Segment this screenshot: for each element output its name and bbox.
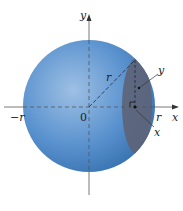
origin-label: 0 (80, 111, 87, 124)
sphere-diagram: y x 0 −r r r y x (0, 0, 183, 211)
cross-section-disk (122, 58, 152, 154)
pos-r-label: r (156, 111, 162, 124)
section-center-dot (133, 105, 136, 108)
section-y-label: y (157, 64, 165, 77)
x-axis-label: x (172, 111, 179, 124)
y-axis-arrow-icon (87, 14, 92, 21)
radius-label: r (106, 71, 112, 84)
section-x-label: x (154, 126, 161, 139)
y-pointer-dot (138, 87, 140, 89)
y-axis-label: y (79, 9, 87, 22)
neg-r-label: −r (10, 111, 25, 124)
x-axis-arrow-icon (172, 105, 179, 110)
